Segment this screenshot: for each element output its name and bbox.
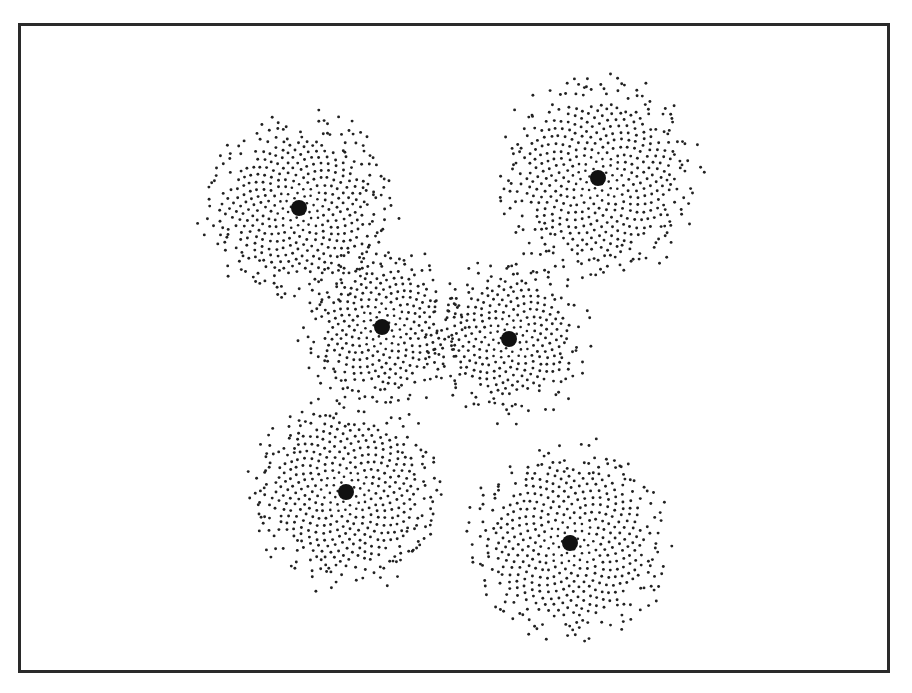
- cluster-core: [374, 319, 390, 335]
- cluster-core: [291, 200, 307, 216]
- cluster-lower-left: [247, 395, 443, 593]
- point-cluster-diagram: [0, 0, 912, 693]
- cluster-upper-left: [196, 109, 400, 305]
- cluster-upper-right: [499, 73, 706, 282]
- cluster-core: [338, 484, 354, 500]
- cluster-middle-right: [425, 262, 593, 426]
- cluster-lower-right: [465, 437, 673, 642]
- cluster-core: [590, 170, 606, 186]
- cluster-core: [562, 535, 578, 551]
- cluster-core: [501, 331, 517, 347]
